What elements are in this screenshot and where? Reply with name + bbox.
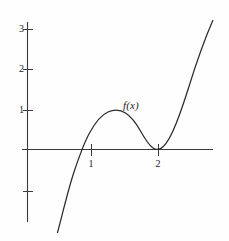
x-tick-label-1: 1 xyxy=(85,159,97,169)
y-tick-label-3: 3 xyxy=(14,24,24,34)
function-curve xyxy=(58,21,213,233)
y-tick-label-2: 2 xyxy=(14,64,24,74)
function-graph-figure: 3 2 1 1 2 f(x) xyxy=(0,0,229,241)
plot-canvas xyxy=(0,0,229,241)
function-label: f(x) xyxy=(123,100,139,111)
y-tick-label-1: 1 xyxy=(14,105,24,115)
x-tick-label-2: 2 xyxy=(152,159,164,169)
